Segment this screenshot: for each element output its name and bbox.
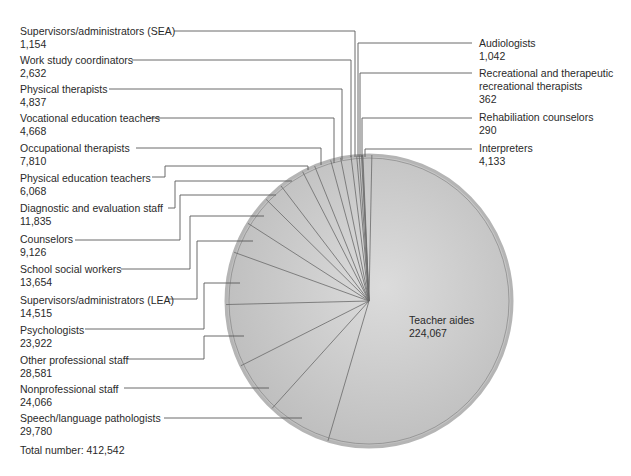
leader-line (360, 73, 472, 157)
total-number: Total number: 412,542 (20, 444, 125, 456)
label-physical-therapists: Physical therapists 4,837 (20, 83, 108, 109)
leader-line (358, 43, 472, 157)
leader-line (136, 148, 321, 165)
leader-line (127, 336, 244, 359)
label-speech-language-pathologists: Speech/language pathologists 29,780 (20, 412, 161, 438)
pie-slices (226, 155, 512, 447)
leader-line (174, 31, 355, 157)
label-psychologists: Psychologists 23,922 (20, 324, 84, 350)
leader-line (362, 118, 472, 157)
label-occupational-therapists: Occupational therapists 7,810 (20, 142, 130, 168)
leader-line (149, 118, 334, 163)
label-counselors: Counselors 9,126 (20, 233, 73, 259)
label-recreational-therapists: Recreational and therapeutic recreationa… (479, 67, 613, 106)
label-work-study-coordinators: Work study coordinators 2,632 (20, 54, 133, 80)
label-teacher-aides: Teacher aides 224,067 (409, 314, 474, 340)
label-nonprofessional-staff: Nonprofessional staff 24,066 (20, 383, 118, 409)
label-interpreters: Interpreters 4,133 (479, 142, 533, 168)
label-supervisors-lea: Supervisors/administrators (LEA) 14,515 (20, 294, 174, 320)
leader-line (152, 166, 308, 177)
label-audiologists: Audiologists 1,042 (479, 37, 536, 63)
label-vocational-education-teachers: Vocational education teachers 4,668 (20, 112, 160, 138)
label-rehabilitation-counselors: Rehabiliation counselors 290 (479, 111, 593, 137)
label-other-professional-staff: Other professional staff 28,581 (20, 354, 128, 380)
leader-line (132, 60, 351, 157)
label-diagnostic-evaluation-staff: Diagnostic and evaluation staff 11,835 (20, 202, 163, 228)
label-supervisors-sea: Supervisors/administrators (SEA) 1,154 (20, 25, 175, 51)
label-school-social-workers: School social workers 13,654 (20, 263, 122, 289)
label-physical-education-teachers: Physical education teachers 6,068 (20, 172, 151, 198)
